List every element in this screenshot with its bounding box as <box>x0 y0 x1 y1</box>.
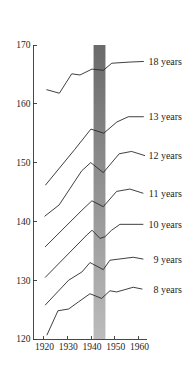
height-by-age-chart: 1201301401501601701920193019401950196018… <box>0 0 194 370</box>
x-tick-label: 1930 <box>59 342 78 352</box>
series-label-13-years: 13 years <box>148 111 182 122</box>
series-label-18-years: 18 years <box>148 56 182 67</box>
y-tick-label: 160 <box>16 99 31 109</box>
y-tick-label: 150 <box>16 158 31 168</box>
x-tick-label: 1920 <box>35 342 54 352</box>
series-label-8-years: 8 years <box>153 284 182 295</box>
y-tick-label: 120 <box>16 334 31 344</box>
y-tick-label: 170 <box>16 40 31 50</box>
x-tick-label: 1960 <box>130 342 149 352</box>
shaded-band <box>94 45 106 339</box>
series-label-12-years: 12 years <box>148 150 182 161</box>
y-tick-label: 130 <box>16 276 31 286</box>
series-label-10-years: 10 years <box>148 219 182 230</box>
series-label-9-years: 9 years <box>153 254 182 265</box>
x-tick-label: 1940 <box>82 342 101 352</box>
series-label-11-years: 11 years <box>149 188 182 199</box>
x-tick-label: 1950 <box>106 342 125 352</box>
y-tick-label: 140 <box>16 217 31 227</box>
chart-canvas: 1201301401501601701920193019401950196018… <box>0 0 194 370</box>
